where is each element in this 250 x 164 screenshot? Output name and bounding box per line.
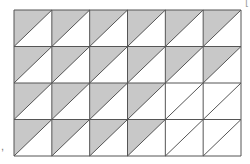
cell-diagonal: [165, 83, 203, 120]
triangle-grid-diagram: [0, 0, 250, 164]
cell-diagonal: [203, 120, 241, 157]
side-mark: ,: [1, 140, 4, 152]
cell-diagonal: [165, 120, 203, 157]
cell-diagonal: [203, 83, 241, 120]
corner-label: [: [245, 0, 248, 7]
